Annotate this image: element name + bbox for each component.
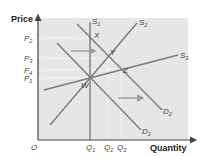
x-axis-label: Quantity [150,143,187,153]
point-x: X [93,31,100,40]
y-axis-label: Price [11,14,33,24]
point-y: Y [110,48,116,57]
price-label-p3: P3 [24,54,33,64]
supply-demand-diagram: Price Quantity O P2P3P4P1 Q1Q2Q3 WXYZ S1… [0,0,207,156]
origin-label: O [31,143,37,152]
price-tick-labels: P2P3P4P1 [24,34,33,84]
price-label-p2: P2 [24,34,33,44]
quantity-tick-labels: Q1Q2Q3 [86,143,127,153]
quantity-label-q3: Q3 [117,143,127,153]
quantity-label-q1: Q1 [86,143,95,153]
plot-area [38,18,188,140]
quantity-label-q2: Q2 [104,143,114,153]
